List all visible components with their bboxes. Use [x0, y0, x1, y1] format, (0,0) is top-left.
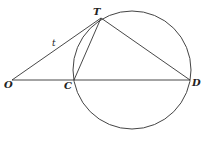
point-label-D: D	[191, 77, 201, 88]
geometry-diagram: O C D T t	[0, 0, 206, 142]
circle	[73, 11, 191, 129]
point-label-C: C	[64, 80, 72, 91]
point-label-T: T	[93, 6, 102, 17]
chord-TD	[101, 18, 190, 80]
tangent-length-label: t	[52, 38, 56, 48]
point-label-O: O	[4, 79, 13, 90]
